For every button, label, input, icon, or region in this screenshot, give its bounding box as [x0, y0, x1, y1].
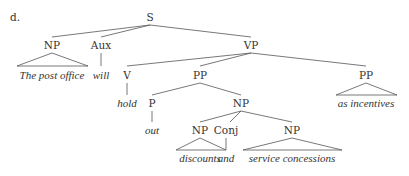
triangle-pp2 — [336, 83, 397, 95]
leaf-concessions: service concessions — [249, 153, 335, 164]
branch-vp-pp2 — [251, 53, 366, 66]
leaf-aux: will — [93, 70, 110, 81]
triangle-np2 — [243, 138, 342, 150]
triangle-np1 — [176, 138, 226, 150]
node-p: P — [148, 98, 155, 109]
leaf-and: and — [218, 153, 235, 164]
leaf-particle: out — [145, 125, 159, 136]
node-np-discounts: NP — [192, 125, 208, 136]
branch-np-np2 — [241, 111, 292, 122]
node-np-subject: NP — [44, 40, 60, 51]
leaf-incentives: as incentives — [338, 98, 395, 109]
leaf-verb: hold — [117, 98, 137, 109]
branch-vp-v — [127, 53, 251, 66]
node-pp-incentives: PP — [359, 70, 373, 81]
branch-np-np1 — [200, 111, 241, 122]
leaf-discounts: discounts — [179, 153, 221, 164]
syntax-tree: d. S NP Aux VP The post office will V PP… — [0, 0, 409, 176]
branch-s-aux — [101, 25, 150, 37]
node-v: V — [123, 70, 131, 81]
branch-s-vp — [150, 25, 251, 37]
triangle-np-subj — [17, 53, 88, 66]
node-pp: PP — [193, 70, 207, 81]
node-aux: Aux — [91, 40, 111, 51]
node-vp: VP — [244, 40, 259, 51]
branch-pp-p — [152, 83, 200, 95]
node-np-object: NP — [233, 98, 249, 109]
node-conj: Conj — [214, 125, 238, 136]
branch-s-np — [52, 25, 150, 37]
node-s: S — [146, 12, 153, 23]
node-np-concessions: NP — [284, 125, 300, 136]
leaf-subject: The post office — [20, 70, 85, 81]
example-label: d. — [10, 12, 20, 23]
tree-branches — [0, 0, 409, 176]
branch-pp-np — [200, 83, 241, 95]
branch-vp-pp — [200, 53, 251, 66]
